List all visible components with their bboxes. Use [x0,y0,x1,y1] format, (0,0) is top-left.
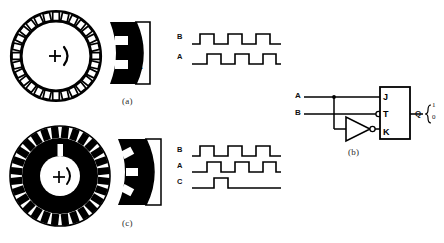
disk-tooth [97,177,109,185]
inverter-bubble-icon [370,126,375,131]
flipflop-pin-t: T [383,109,389,119]
waveform-trace-b [192,34,281,44]
sensor-window-label-b: B [137,38,143,47]
waveform-trace-c-index [192,178,281,188]
panel-b-caption: (b) [348,147,359,157]
index-slot [58,144,64,156]
panel-c: B C A B A C (c) [0,118,170,243]
sensor-head-c: B C A [114,136,166,208]
disk-tooth [40,211,51,224]
sensor-window-label-a: A [137,62,143,71]
jk-flipflop-circuit: J T K [290,85,440,163]
disk-tooth [10,177,22,185]
disk-tooth [97,167,109,175]
panel-c-caption: (c) [122,218,133,228]
disk-tooth [61,90,69,100]
disk-tooth [92,53,101,60]
waveform-plot-a [184,30,284,70]
disk-tooth [12,156,25,167]
waveform-label-b-c: B [177,145,182,154]
waveform-trace-a-c [192,162,281,172]
disk-tooth [61,213,69,225]
encoder-disk-c [8,122,112,230]
disk-tooth [43,90,51,100]
disk-tooth [12,53,21,60]
disk-tooth [43,12,51,22]
circuit-output-label-q: Q [415,109,421,118]
waveform-trace-b-c [192,146,281,156]
flipflop-pin-k: K [383,127,390,137]
disk-tooth [95,185,108,196]
disk-tooth [51,126,59,138]
waveform-trace-a [192,54,281,64]
output-brace-icon [425,105,431,123]
output-level-high: 1 [432,101,436,109]
encoder-disk-a [6,6,106,106]
disk-tooth [95,156,108,167]
disk-tooth [10,167,22,175]
flipflop-pin-j: J [383,92,388,102]
disk-tooth [51,213,59,225]
disk-tooth [69,211,80,224]
circuit-input-label-a: A [295,91,301,100]
panel-b: J T K A B Q 1 0 (b) [290,85,444,180]
disk-a-hub [49,47,68,65]
sensor-head-a: B A [106,20,154,86]
circuit-input-label-b: B [295,108,301,117]
disk-tooth [90,61,100,69]
disk-tooth [90,43,100,51]
disk-tooth [12,61,22,69]
disk-tooth [61,126,69,138]
disk-tooth [40,128,51,141]
junction-dot-a [332,95,336,99]
panel-a-caption: (a) [122,96,133,106]
waveform-label-c-index: C [177,177,182,186]
disk-tooth [12,185,25,196]
disk-tooth [69,128,80,141]
waveform-label-a-c: A [177,161,182,170]
waveform-label-b: B [177,32,182,41]
output-level-low: 0 [432,113,436,121]
disk-tooth [53,92,60,101]
disk-tooth [53,12,60,21]
disk-tooth [12,43,22,51]
inverter-gate-icon [346,117,370,141]
waveform-plot-c [184,144,284,192]
disk-tooth [61,12,69,22]
waveform-label-a: A [177,52,182,61]
panel-a: B A B A (a) [0,0,170,110]
